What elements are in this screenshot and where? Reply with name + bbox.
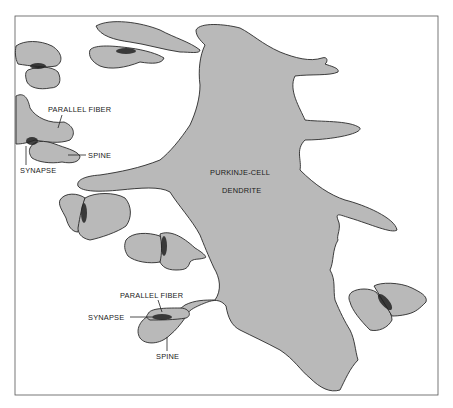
label-purkinje-cell: PURKINJE-CELL	[210, 168, 270, 177]
synapse-marker	[26, 137, 38, 145]
parallel-fiber-upper	[16, 95, 73, 144]
label-dendrite: DENDRITE	[222, 186, 261, 195]
spine-top-left	[26, 67, 60, 89]
label-spine-lower: SPINE	[156, 352, 179, 361]
synapse-marker	[81, 203, 87, 223]
spine-upper	[29, 141, 80, 162]
purkinje-dendrite-diagram: PURKINJE-CELL DENDRITE PARALLEL FIBER SP…	[0, 0, 453, 408]
fiber-center	[125, 233, 163, 262]
label-spine-upper: SPINE	[88, 151, 111, 160]
label-parallel-fiber-upper: PARALLEL FIBER	[48, 105, 111, 114]
label-synapse-lower: SYNAPSE	[88, 313, 124, 322]
spine-center	[160, 233, 206, 270]
synapse-marker	[152, 314, 172, 320]
synapse-marker	[30, 63, 46, 69]
synapse-marker	[116, 48, 136, 54]
label-parallel-fiber-lower: PARALLEL FIBER	[120, 291, 183, 300]
synapse-marker	[161, 236, 167, 256]
label-synapse-upper: SYNAPSE	[20, 166, 56, 175]
